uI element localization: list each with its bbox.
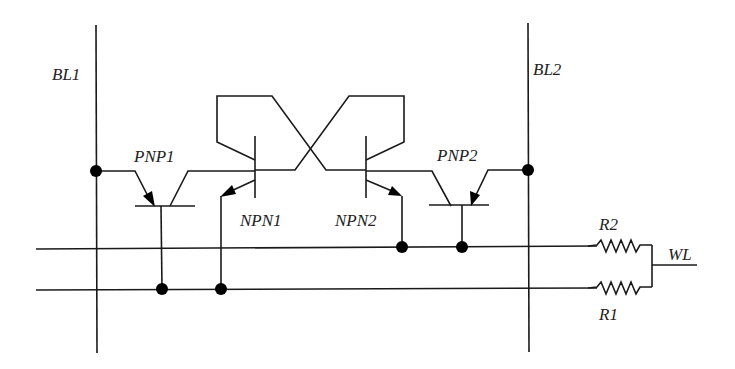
resistor-r2	[588, 240, 652, 252]
junction-dot	[522, 164, 534, 176]
npn1-transistor	[217, 96, 366, 289]
resistor-r1	[588, 282, 652, 294]
junction-dot	[156, 283, 168, 295]
junction-dot	[396, 241, 408, 253]
label-wl: WL	[668, 245, 692, 264]
label-r1: R1	[598, 305, 618, 324]
junction-dot	[90, 165, 102, 177]
label-bl1: BL1	[52, 65, 80, 84]
bit-line-2	[528, 23, 529, 352]
label-npn2: NPN2	[334, 211, 377, 230]
label-bl2: BL2	[533, 60, 562, 79]
upper-word-line	[36, 246, 597, 249]
bit-line-1	[96, 25, 97, 353]
label-pnp2: PNP2	[436, 146, 478, 165]
label-pnp1: PNP1	[133, 147, 175, 166]
label-npn1: NPN1	[239, 211, 282, 230]
lower-word-line	[36, 288, 597, 290]
junction-dot	[456, 241, 468, 253]
circuit-diagram: BL1 BL2 PNP1 PNP2 NPN1 NPN2 R2 R1 WL	[0, 0, 735, 369]
pnp2-transistor	[429, 170, 528, 247]
junction-dot	[215, 283, 227, 295]
label-r2: R2	[598, 215, 618, 234]
